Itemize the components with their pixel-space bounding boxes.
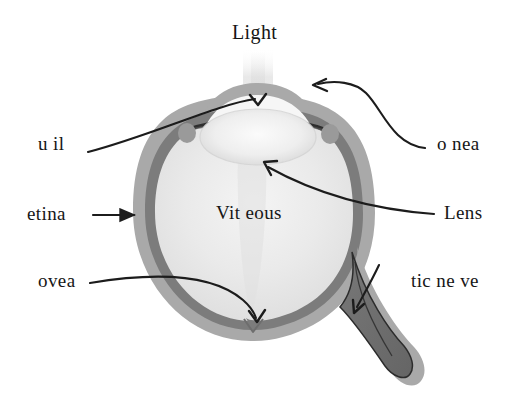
label-vitreous: Vit eous <box>216 203 282 222</box>
label-fovea: ovea <box>38 271 75 290</box>
label-lens: Lens <box>444 203 483 222</box>
label-light: Light <box>232 22 277 42</box>
lens <box>200 109 316 165</box>
eye-diagram: Light u il o nea etina Lens ovea tic ne … <box>0 0 517 411</box>
label-retina: etina <box>27 204 66 223</box>
label-cornea: o nea <box>437 134 480 153</box>
label-pupil: u il <box>38 134 64 153</box>
label-optic-nerve: tic ne ve <box>411 271 479 290</box>
cornea-arrowhead <box>313 79 327 91</box>
optic-nerve <box>340 247 425 386</box>
